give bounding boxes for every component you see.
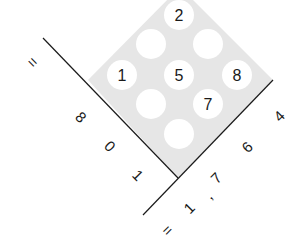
right-digit-3: 6 [238,138,256,156]
cell-top: 2 [164,0,194,30]
cell-lower-right: 7 [193,89,223,119]
right-digit-4: 4 [270,107,288,125]
svg-text:1: 1 [118,67,127,84]
svg-text:7: 7 [204,96,213,113]
left-equals: = [24,53,42,71]
svg-text:5: 5 [175,67,184,84]
svg-text:8: 8 [233,67,242,84]
cell-mid-left: 1 [107,60,137,90]
cell-center: 5 [164,60,194,90]
lattice-diagram: 2 1 5 8 7 = 8 0 1 = 1 , 7 6 4 [0,0,300,247]
left-digit-3: 1 [129,166,147,184]
svg-text:2: 2 [175,7,184,24]
cell-upper-right [193,29,223,59]
cell-bottom [164,119,194,149]
cell-lower-left [136,89,166,119]
right-digit-2: 7 [207,169,225,187]
left-digit-1: 8 [72,108,90,126]
right-equals: = [158,221,176,239]
cell-mid-right: 8 [222,60,252,90]
left-digit-2: 0 [101,137,119,155]
right-digit-1: 1 [180,199,198,217]
right-comma: , [201,188,216,203]
cell-upper-left [136,29,166,59]
